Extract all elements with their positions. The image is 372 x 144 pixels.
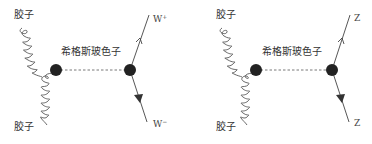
particle-charge: − [162,118,167,125]
feynman-diagram-zz: 胶子 胶子 希格斯玻色子 Z Z [186,0,372,144]
particle-charge: + [162,13,167,20]
gluon-line-bottom [241,72,254,125]
arrow-filled-icon [134,94,143,103]
gluon-label-bottom: 胶子 [14,122,34,132]
vertex-higgs-decay [326,64,338,76]
particle-symbol: Z [354,118,360,128]
higgs-label: 希格斯玻色子 [61,47,121,57]
vertex-gluon-fusion [250,64,262,76]
gluon-label-bottom: 胶子 [216,122,236,132]
gluon-line-bottom [41,72,54,125]
diagram-graphics-zz [186,0,372,144]
gluon-label-top: 胶子 [14,10,34,20]
arrow-filled-icon [336,94,345,103]
gluon-line-top [220,28,242,77]
vertex-higgs-decay [124,64,136,76]
particle-label-top: W+ [153,14,167,24]
fermion-line-top [332,15,350,70]
particle-symbol: W [153,14,162,24]
gluon-label-top: 胶子 [216,10,236,20]
fermion-line-top [130,15,149,70]
higgs-label: 希格斯玻色子 [262,47,322,57]
particle-label-bottom: W− [153,119,167,129]
particle-label-bottom: Z [354,119,360,128]
particle-symbol: W [153,119,162,129]
particle-symbol: Z [354,13,360,23]
particle-label-top: Z [354,14,360,23]
vertex-gluon-fusion [50,64,62,76]
feynman-diagram-ww: 胶子 胶子 希格斯玻色子 W+ W− [0,0,186,144]
gluon-line-top [20,28,42,77]
